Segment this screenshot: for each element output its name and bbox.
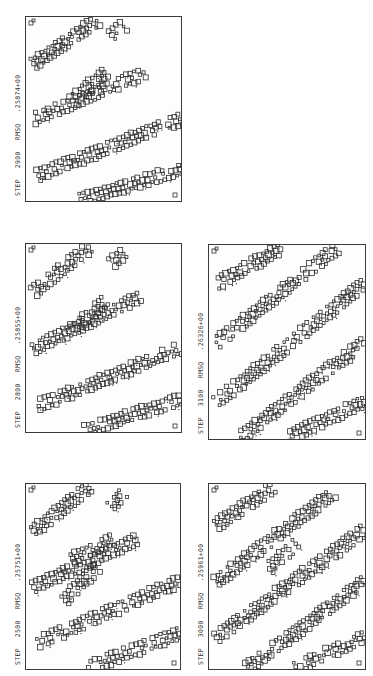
rmsq-label: RMSQ xyxy=(197,592,205,609)
rmsq-label: RMSQ xyxy=(197,361,205,378)
step-label: STEP xyxy=(14,179,22,196)
rmsq-label: RMSQ xyxy=(14,355,22,372)
rmsq-value: .25961+00 xyxy=(197,544,205,582)
step-value: 2800 xyxy=(14,383,22,400)
step-label: STEP xyxy=(197,417,205,434)
plot-frame xyxy=(208,483,366,670)
panel-label: STEP3000RMSQ.25961+00 xyxy=(197,544,205,666)
panel-label: STEP3100RMSQ.26326+00 xyxy=(197,313,205,435)
step-value: 2900 xyxy=(14,151,22,168)
step-value: 3000 xyxy=(197,620,205,637)
lattice-pattern xyxy=(26,17,182,202)
plot-frame xyxy=(25,483,181,670)
step-value: 2500 xyxy=(14,620,22,637)
step-value: 3100 xyxy=(197,389,205,406)
lattice-pattern xyxy=(209,484,366,670)
plot-frame xyxy=(208,244,366,440)
step-label: STEP xyxy=(14,648,22,665)
rmsq-value: .25751+00 xyxy=(14,544,22,582)
panel-label: STEP2500RMSQ.25751+00 xyxy=(14,544,22,666)
lattice-pattern xyxy=(26,484,181,670)
plot-frame xyxy=(25,16,182,202)
lattice-pattern xyxy=(209,245,366,440)
step-label: STEP xyxy=(14,411,22,428)
lattice-pattern xyxy=(26,244,182,433)
plot-frame xyxy=(25,243,182,433)
rmsq-label: RMSQ xyxy=(14,592,22,609)
panel-label: STEP2800RMSQ.25855+00 xyxy=(14,307,22,429)
panel-label: STEP2900RMSQ.25874+00 xyxy=(14,75,22,197)
step-label: STEP xyxy=(197,648,205,665)
rmsq-label: RMSQ xyxy=(14,123,22,140)
rmsq-value: .25855+00 xyxy=(14,307,22,345)
rmsq-value: .25874+00 xyxy=(14,75,22,113)
rmsq-value: .26326+00 xyxy=(197,313,205,351)
